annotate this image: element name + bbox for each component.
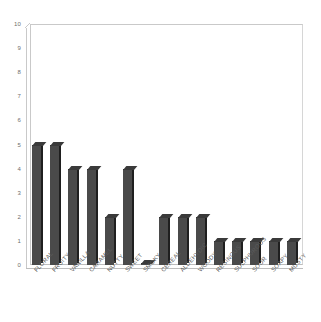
- y-tick-label: 6: [17, 117, 21, 123]
- y-tick-label: 10: [14, 21, 21, 27]
- bar-front-face: [50, 145, 59, 266]
- bar-top-face: [196, 214, 210, 218]
- x-axis: FLORALFRUITYVANILLACARAMELNUTTYSWEETSMOK…: [30, 269, 303, 322]
- y-tick-label: 0: [17, 262, 21, 268]
- y-tick-label: 3: [17, 190, 21, 196]
- bar-chart-figure: 012345678910 FLORALFRUITYVANILLACARAMELN…: [0, 0, 321, 322]
- bars-layer: [30, 24, 303, 269]
- y-tick-label: 8: [17, 69, 21, 75]
- y-tick-label: 9: [17, 45, 21, 51]
- bar-top-face: [287, 238, 301, 242]
- bar-top-face: [232, 238, 246, 242]
- y-tick-label: 4: [17, 166, 21, 172]
- bar-top-face: [50, 142, 64, 146]
- bar-column: [123, 169, 134, 265]
- bar-column: [105, 217, 116, 265]
- bar-top-face: [123, 166, 137, 170]
- bar-front-face: [178, 217, 187, 265]
- bar-top-face: [32, 142, 46, 146]
- bar-column: [178, 217, 189, 265]
- bar-top-face: [68, 166, 82, 170]
- y-tick-label: 1: [17, 238, 21, 244]
- bar-column: [32, 145, 43, 266]
- bar-top-face: [87, 166, 101, 170]
- bar-front-face: [123, 169, 132, 265]
- bar-top-face: [269, 238, 283, 242]
- y-tick-label: 7: [17, 93, 21, 99]
- bar-top-face: [105, 214, 119, 218]
- bar-front-face: [68, 169, 77, 265]
- bar-top-face: [159, 214, 173, 218]
- bar-column: [50, 145, 61, 266]
- bar-front-face: [32, 145, 41, 266]
- bar-top-face: [178, 214, 192, 218]
- y-axis: 012345678910: [0, 0, 24, 322]
- bar-top-face: [214, 238, 228, 242]
- y-tick-label: 2: [17, 214, 21, 220]
- bar-front-face: [159, 217, 168, 265]
- y-tick-label: 5: [17, 142, 21, 148]
- bar-column: [196, 217, 207, 265]
- bar-column: [68, 169, 79, 265]
